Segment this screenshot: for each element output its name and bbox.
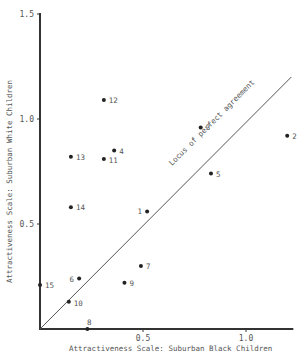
data-point — [102, 157, 106, 161]
data-point — [69, 155, 73, 159]
data-point — [38, 283, 42, 287]
data-point — [199, 125, 203, 129]
data-point — [112, 149, 116, 153]
data-point — [122, 281, 126, 285]
data-point — [102, 98, 106, 102]
reference-line-label: Locus of perfect agreement — [167, 78, 256, 167]
point-label: 9 — [129, 279, 134, 288]
point-label: 4 — [119, 147, 124, 156]
point-label: 2 — [292, 132, 297, 141]
data-point — [285, 134, 289, 138]
point-label: 10 — [74, 299, 84, 308]
data-point — [139, 264, 143, 268]
point-label: 1 — [138, 207, 143, 216]
x-tick-label: 0.5 — [136, 334, 151, 343]
y-tick-label: 1.0 — [20, 115, 35, 124]
y-tick-label: 0.5 — [20, 220, 35, 229]
point-label: 5 — [216, 170, 221, 179]
point-label: 15 — [45, 281, 54, 290]
y-tick-label: 1.5 — [20, 10, 35, 19]
data-point — [69, 205, 73, 209]
point-label: 12 — [109, 96, 118, 105]
data-point — [85, 327, 89, 331]
point-label: 13 — [76, 153, 85, 162]
point-label: 11 — [109, 156, 118, 165]
data-point — [209, 172, 213, 176]
data-point — [145, 209, 149, 213]
plot-area: 0.51.01.50.51.0Attractiveness Scale: Sub… — [0, 0, 300, 355]
point-label: 7 — [146, 262, 151, 271]
x-axis-label: Attractiveness Scale: Suburban Black Chi… — [69, 344, 272, 353]
point-label: 8 — [87, 318, 92, 327]
y-axis-label: Attractiveness Scale: Suburban White Chi… — [5, 80, 14, 283]
scatter-chart: 0.51.01.50.51.0Attractiveness Scale: Sub… — [0, 0, 300, 355]
point-label: 3 — [206, 123, 211, 132]
x-tick-label: 1.0 — [239, 334, 254, 343]
data-point — [67, 300, 71, 304]
point-label: 14 — [76, 203, 86, 212]
data-point — [77, 277, 81, 281]
point-label: 6 — [70, 275, 75, 284]
